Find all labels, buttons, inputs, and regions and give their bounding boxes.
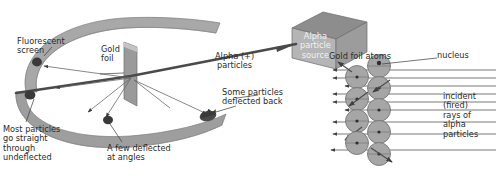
nucleus-dot: [377, 130, 380, 133]
atom: [368, 143, 393, 166]
leader-some-deflected-back: [216, 106, 236, 112]
label-alpha-particles: Alpha (+) particles: [215, 52, 254, 71]
atom: [346, 88, 369, 111]
spot-1: [32, 58, 42, 67]
atom: [368, 99, 391, 122]
label-nucleus: nucleus: [437, 51, 469, 60]
nucleus-dot: [355, 75, 358, 78]
label-few-deflected-at-angles: A few deflected at angles: [107, 144, 171, 163]
nucleus-dot: [355, 119, 358, 122]
label-incident-rays-of-alpha-particles: incident (fired) rays of alpha particles: [443, 92, 478, 139]
track-small-angle-4: [44, 66, 131, 78]
spot-3: [103, 116, 113, 124]
spot-2: [25, 90, 36, 99]
nucleus-dot: [377, 108, 380, 111]
atom: [368, 77, 391, 100]
atom: [346, 66, 369, 89]
rutherford-experiment-diagram: Fluorescent screen Gold foil Alpha (+) p…: [0, 0, 496, 179]
atom-column-right: [368, 55, 393, 166]
leader-gold-foil: [100, 73, 124, 74]
label-some-particles-deflected-back: Some particles deflected back: [222, 88, 283, 107]
label-alpha-particle-source: Alpha particle source: [300, 32, 331, 60]
nucleus-dot: [377, 61, 381, 65]
atom-column-left: [338, 62, 369, 155]
label-gold-foil-atoms: Gold foil atoms: [329, 52, 391, 61]
atom: [368, 121, 391, 144]
atom: [346, 132, 369, 155]
nucleus-dot: [355, 141, 358, 144]
label-gold-foil: Gold foil: [101, 45, 120, 64]
label-fluorescent-screen: Fluorescent screen: [17, 37, 65, 56]
label-most-particles-undeflected: Most particles go straight through undef…: [3, 125, 60, 163]
